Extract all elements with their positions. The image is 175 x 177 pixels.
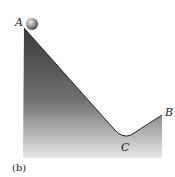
label-point-c: C [121,142,129,153]
figure: A B C (b) [0,0,175,177]
track-diagram [0,0,175,177]
track-surface [23,28,162,158]
ball [26,18,38,30]
label-point-b: B [165,107,173,118]
label-point-a: A [15,17,23,28]
figure-caption: (b) [12,163,26,173]
